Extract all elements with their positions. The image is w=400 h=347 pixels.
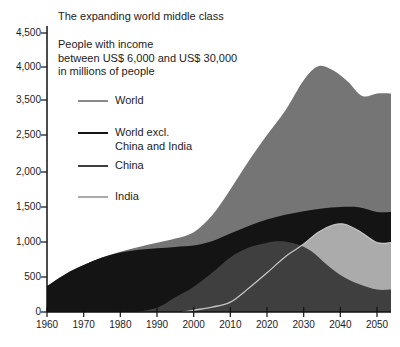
y-axis-label-500: 500	[8, 271, 41, 283]
y-axis-label-3500: 3,500	[8, 94, 41, 106]
x-axis-label-2010: 2010	[213, 319, 247, 331]
legend-label: World excl.China and India	[115, 126, 192, 153]
x-axis-label-2050: 2050	[360, 319, 394, 331]
legend-line-sample	[78, 165, 108, 167]
y-axis-label-2500: 2,500	[8, 129, 41, 141]
y-axis-label-4000: 4,000	[8, 61, 41, 73]
chart-page: The expanding world middle class People …	[0, 0, 400, 347]
legend-line-sample	[78, 100, 108, 102]
x-axis-label-2040: 2040	[323, 319, 357, 331]
y-axis-label-1500: 1,500	[8, 201, 41, 213]
x-axis-label-2030: 2030	[287, 319, 321, 331]
legend-label: India	[115, 190, 139, 204]
legend-label: China	[115, 159, 144, 173]
legend-line-sample	[78, 132, 108, 135]
legend-label-line: China	[115, 159, 144, 173]
x-axis-label-2020: 2020	[250, 319, 284, 331]
y-axis-label-0: 0	[8, 306, 41, 318]
y-axis-label-2000: 2,000	[8, 166, 41, 178]
legend-label-line: World excl.	[115, 126, 192, 140]
y-axis-label-4500: 4,500	[8, 27, 41, 39]
legend-label-line: India	[115, 190, 139, 204]
area-chart	[0, 0, 400, 347]
legend-line-sample	[78, 196, 108, 198]
x-axis-label-1990: 1990	[140, 319, 174, 331]
legend-label: World	[115, 94, 144, 108]
x-axis-label-1960: 1960	[30, 319, 64, 331]
x-axis-label-2000: 2000	[177, 319, 211, 331]
legend-label-line: China and India	[115, 140, 192, 154]
x-axis-label-1980: 1980	[103, 319, 137, 331]
legend-label-line: World	[115, 94, 144, 108]
x-axis-label-1970: 1970	[67, 319, 101, 331]
y-axis-label-1000: 1,000	[8, 236, 41, 248]
